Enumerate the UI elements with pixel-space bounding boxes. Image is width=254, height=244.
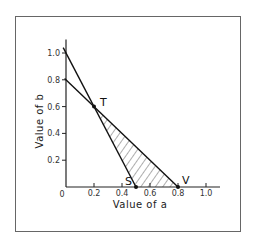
point-label-V: V xyxy=(182,174,190,187)
y-axis-label: Value of b xyxy=(34,94,45,149)
x-tick-label: 1.0 xyxy=(200,189,213,198)
point-label-T: T xyxy=(99,96,107,109)
y-tick-label: 0.8 xyxy=(47,76,60,85)
y-tick-label: 0.2 xyxy=(47,156,60,165)
y-tick-label: 0.4 xyxy=(47,129,60,138)
chart: 0.20.40.60.81.00.20.40.60.81.0TSV Value … xyxy=(0,0,254,244)
y-tick-label: 1.0 xyxy=(47,49,60,58)
point-S xyxy=(134,185,138,189)
x-tick-label: 0.8 xyxy=(172,189,185,198)
point-V xyxy=(176,185,180,189)
series-line-b-equals-1-minus-2a xyxy=(63,48,136,187)
x-tick-label: 0.6 xyxy=(144,189,157,198)
y-tick-label: 0.6 xyxy=(47,103,60,112)
origin-label: 0 xyxy=(59,190,64,199)
point-T xyxy=(92,105,96,109)
series-line-b-equals-0.8-minus-a xyxy=(65,78,178,187)
x-tick-label: 0.2 xyxy=(88,189,101,198)
point-label-S: S xyxy=(125,175,132,188)
x-axis-label: Value of a xyxy=(113,199,168,210)
x-tick-label: 0.4 xyxy=(116,189,129,198)
